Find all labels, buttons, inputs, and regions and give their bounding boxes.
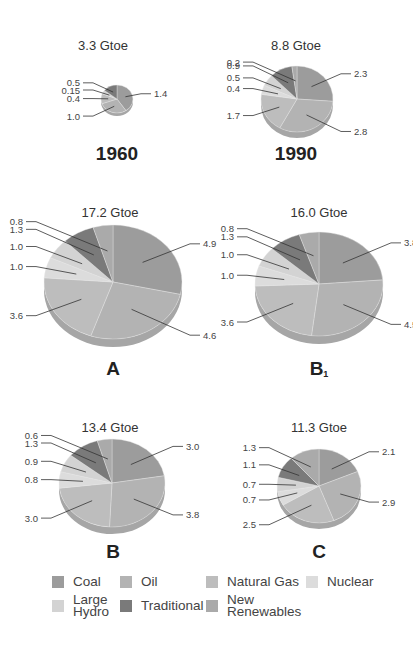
value-label: 1.0 [10, 261, 23, 272]
value-label: 3.6 [221, 317, 234, 328]
value-label: 3.8 [404, 237, 413, 248]
legend-label: Oil [141, 576, 158, 588]
legend-item-nuclear: Nuclear [306, 576, 374, 588]
value-label: 0.5 [227, 72, 240, 83]
legend-item-oil: Oil [120, 576, 158, 588]
value-label: 0.8 [10, 216, 23, 227]
legend-label: Coal [73, 576, 101, 588]
pie-panel-a: 17.2 Gtoe 4.94.63.61.01.01.30.8 A [0, 180, 230, 415]
legend-item-traditional: Traditional [120, 600, 204, 612]
pie-panel-c: 11.3 Gtoe 2.12.92.50.70.71.11.3 C [230, 415, 413, 565]
legend: Coal Oil Natural Gas Nuclear Large Hydro… [28, 574, 408, 634]
pie-slice-oil [311, 280, 383, 336]
value-label: 2.8 [354, 126, 367, 137]
value-label: 3.0 [25, 513, 38, 524]
value-label: 4.9 [203, 238, 216, 249]
coal-swatch [52, 576, 64, 588]
scenario-label: 1990 [246, 143, 346, 165]
pie-slice-natural-gas [255, 284, 319, 336]
value-label: 4.6 [203, 330, 216, 341]
legend-label: Nuclear [327, 576, 374, 588]
value-label: 0.8 [221, 223, 234, 234]
value-label: 0.9 [25, 456, 38, 467]
value-label: 0.5 [67, 77, 80, 88]
pie-slice-coal [297, 66, 333, 101]
legend-label: Traditional [141, 600, 204, 612]
value-label: 4.5 [404, 319, 413, 330]
legend-item-large-hydro: Large Hydro [52, 594, 109, 618]
legend-item-natural-gas: Natural Gas [206, 576, 299, 588]
value-label: 0.7 [243, 479, 256, 490]
value-label: 1.4 [154, 88, 167, 99]
value-label: 0.7 [243, 494, 256, 505]
scenario-label: C [269, 541, 369, 563]
pie-panel-b: 13.4 Gtoe 3.03.83.00.80.91.30.6 B [0, 415, 230, 565]
large-hydro-swatch [52, 600, 64, 612]
nuclear-swatch [306, 576, 318, 588]
traditional-swatch [120, 600, 132, 612]
legend-item-new-renewables: New Renewables [206, 594, 301, 618]
value-label: 2.3 [354, 68, 367, 79]
pie-slice-natural-gas [59, 483, 112, 527]
value-label: 1.1 [243, 459, 256, 470]
value-label: 1.0 [67, 111, 80, 122]
value-label: 1.0 [221, 249, 234, 260]
value-label: 1.0 [221, 270, 234, 281]
value-label: 3.6 [10, 310, 23, 321]
pie-slice-oil [110, 476, 165, 527]
value-label: 0.2 [227, 57, 240, 68]
legend-item-coal: Coal [52, 576, 101, 588]
value-label: 1.3 [243, 442, 256, 453]
new-renewables-swatch [206, 600, 218, 612]
value-label: 2.5 [243, 519, 256, 530]
legend-label: Large Hydro [73, 594, 109, 618]
scenario-label: A [63, 358, 163, 380]
scenario-label: 1960 [67, 143, 167, 165]
value-label: 0.6 [25, 430, 38, 441]
natural-gas-swatch [206, 576, 218, 588]
oil-swatch [120, 576, 132, 588]
value-label: 1.7 [227, 110, 240, 121]
value-label: 0.8 [25, 474, 38, 485]
value-label: 1.0 [10, 241, 23, 252]
scenario-label: B1 [269, 358, 369, 380]
legend-label: Natural Gas [227, 576, 299, 588]
pie-panel-b1: 16.0 Gtoe 3.84.53.61.01.01.30.8 B1 [230, 180, 413, 415]
value-label: 3.8 [186, 509, 199, 520]
pie-panel-1960: 3.3 Gtoe 1.41.00.40.150.5 1960 [0, 0, 206, 170]
pie-slice-coal [319, 232, 383, 284]
legend-label: New Renewables [227, 594, 301, 618]
scenario-label: B [63, 541, 163, 563]
value-label: 2.9 [382, 497, 395, 508]
value-label: 0.4 [227, 83, 240, 94]
value-label: 3.0 [186, 441, 199, 452]
value-label: 2.1 [382, 446, 395, 457]
pie-panel-1990: 8.8 Gtoe 2.32.81.70.40.50.90.2 1990 [206, 0, 413, 170]
